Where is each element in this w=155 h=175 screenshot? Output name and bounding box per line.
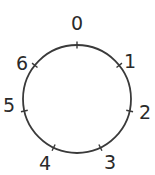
point-label-3: 3 xyxy=(104,151,116,173)
point-label-6: 6 xyxy=(16,52,28,74)
tick-marks xyxy=(21,42,133,151)
point-labels: 0 1 2 3 4 5 6 xyxy=(3,12,151,174)
circular-number-line-diagram: 0 1 2 3 4 5 6 xyxy=(0,0,155,175)
circle xyxy=(23,45,131,153)
point-label-2: 2 xyxy=(139,101,151,123)
point-label-1: 1 xyxy=(124,50,136,72)
tick-mark-2 xyxy=(126,110,133,112)
point-label-5: 5 xyxy=(3,94,15,116)
point-label-4: 4 xyxy=(39,152,51,174)
tick-mark-5 xyxy=(21,110,28,112)
point-label-0: 0 xyxy=(71,12,83,34)
